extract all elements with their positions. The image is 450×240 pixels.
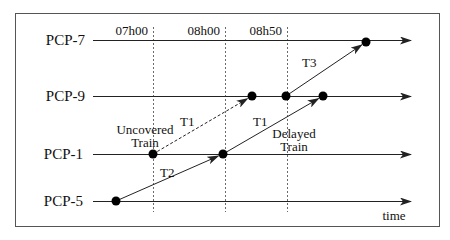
station-label-pcp5: PCP-5 xyxy=(44,193,83,209)
time-labels: 07h00 08h00 08h50 xyxy=(116,23,283,38)
train-label-t1-uncovered: T1 xyxy=(180,114,194,129)
train-label-t2: T2 xyxy=(160,165,174,180)
time-axis-label: time xyxy=(382,208,405,223)
train-label-t1-delayed: T1 xyxy=(253,114,267,129)
station-label-pcp7: PCP-7 xyxy=(46,32,86,48)
station-lines xyxy=(93,41,411,202)
station-label-pcp1: PCP-1 xyxy=(44,146,83,162)
event-dot-e5 xyxy=(282,92,291,101)
annotation-uncovered-line2: Train xyxy=(131,135,159,150)
event-dot-e1 xyxy=(112,197,121,206)
event-dot-e7 xyxy=(362,38,371,47)
time-label-0700: 07h00 xyxy=(116,23,149,38)
station-labels: PCP-7 PCP-9 PCP-1 PCP-5 xyxy=(44,32,86,209)
station-label-pcp9: PCP-9 xyxy=(46,88,85,104)
train-time-space-diagram: PCP-7 PCP-9 PCP-1 PCP-5 07h00 08h00 08h5… xyxy=(0,0,450,240)
train-label-t3: T3 xyxy=(302,55,316,70)
event-dot-e6 xyxy=(319,92,328,101)
event-dot-e2 xyxy=(149,150,158,159)
event-dot-e3 xyxy=(219,150,228,159)
annotation-delayed-line2: Train xyxy=(280,139,308,154)
time-label-0800: 08h00 xyxy=(188,23,221,38)
time-label-0850: 08h50 xyxy=(250,23,283,38)
train-labels: T2 T1 T1 T3 xyxy=(160,55,316,180)
train-path-t3-3 xyxy=(286,45,362,96)
event-dot-e4 xyxy=(248,92,257,101)
annotations: Uncovered Train Delayed Train xyxy=(116,122,316,154)
